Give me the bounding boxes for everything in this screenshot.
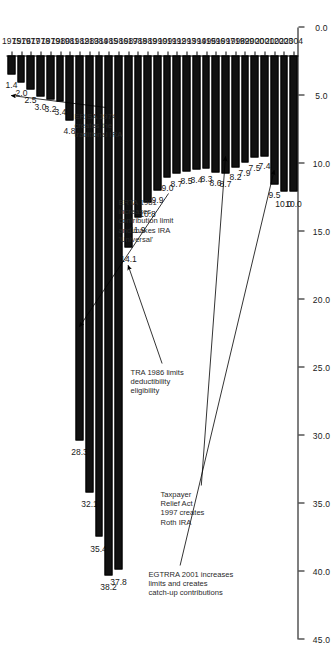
category-tick <box>118 51 119 55</box>
category-tick <box>11 51 12 55</box>
bar-row: 8.2 <box>231 55 239 639</box>
value-tick-label: 15.0 <box>312 226 329 236</box>
ira-contributions-chart: 0.05.010.015.020.025.030.035.040.045.0 1… <box>0 0 334 667</box>
bar-row: 10.8 <box>143 55 151 639</box>
bar-row: 10.0 <box>289 55 297 639</box>
category-tick <box>157 51 158 55</box>
category-label: 2004 <box>284 36 303 46</box>
category-tick <box>128 51 129 55</box>
value-tick-label: 20.0 <box>312 294 329 304</box>
bar <box>26 55 34 89</box>
category-tick <box>235 51 236 55</box>
value-tick <box>298 230 304 231</box>
bar-row: 3.4 <box>56 55 64 639</box>
bar <box>172 55 180 173</box>
category-tick <box>274 51 275 55</box>
value-tick <box>298 94 304 95</box>
bar <box>241 55 249 162</box>
bar <box>182 55 190 171</box>
bar-row: 2.0 <box>17 55 25 639</box>
bar-row: 1.4 <box>7 55 15 639</box>
bar <box>192 55 200 169</box>
bar-row: 35.4 <box>95 55 103 639</box>
category-tick <box>225 51 226 55</box>
value-tick-label: 40.0 <box>312 566 329 576</box>
category-tick <box>293 51 294 55</box>
value-tick <box>298 434 304 435</box>
value-tick-label: 5.0 <box>315 90 327 100</box>
bar-row: 8.7 <box>172 55 180 639</box>
category-tick <box>108 51 109 55</box>
annotation-egtrra-2001: EGTRRA 2001 increases limits and creates… <box>148 569 233 597</box>
bar <box>65 55 73 120</box>
category-tick <box>69 51 70 55</box>
bar <box>211 55 219 172</box>
category-tick <box>40 51 41 55</box>
category-tick <box>254 51 255 55</box>
bar-row: 9.9 <box>153 55 161 639</box>
bar-row: 14.1 <box>124 55 132 639</box>
category-tick <box>89 51 90 55</box>
bar <box>143 55 151 202</box>
category-tick <box>264 51 265 55</box>
bar <box>231 55 239 167</box>
annotation-tra-1986: TRA 1986 limits deductibility eligibilit… <box>130 367 183 395</box>
bar-row: 38.2 <box>104 55 112 639</box>
bar <box>7 55 15 74</box>
bar <box>163 55 171 177</box>
bar-row: 7.5 <box>250 55 258 639</box>
bar-value-label: 3.4 <box>54 106 66 116</box>
bar-series: 1.42.02.53.03.23.44.828.332.135.438.237.… <box>6 55 298 639</box>
bar <box>17 55 25 82</box>
value-tick-label: 0.0 <box>315 22 327 32</box>
bar <box>289 55 297 191</box>
bar <box>270 55 278 184</box>
bar <box>221 55 229 173</box>
annotation-erisa-1974: ERISA 1974 creates the traditional IRA <box>74 111 122 139</box>
category-tick <box>244 51 245 55</box>
value-tick <box>298 26 304 27</box>
value-tick-label: 35.0 <box>312 498 329 508</box>
category-tick <box>167 51 168 55</box>
category-tick <box>21 51 22 55</box>
value-tick-label: 10.0 <box>312 158 329 168</box>
bar-row: 8.3 <box>202 55 210 639</box>
category-tick <box>79 51 80 55</box>
bar <box>36 55 44 96</box>
bar-row: 2.5 <box>26 55 34 639</box>
category-tick <box>206 51 207 55</box>
category-tick <box>98 51 99 55</box>
category-tick <box>50 51 51 55</box>
bar-row: 7.9 <box>241 55 249 639</box>
bar-row: 37.8 <box>114 55 122 639</box>
bar-row: 8.5 <box>182 55 190 639</box>
value-tick-label: 25.0 <box>312 362 329 372</box>
annotation-erta-1981: ERTA 1981 increases contribution limit a… <box>118 197 173 243</box>
bar-row: 8.6 <box>211 55 219 639</box>
value-tick-label: 30.0 <box>312 430 329 440</box>
category-tick <box>196 51 197 55</box>
category-tick <box>137 51 138 55</box>
bar-value-label: 10.0 <box>285 198 302 208</box>
category-tick <box>60 51 61 55</box>
value-tick <box>298 570 304 571</box>
category-tick <box>147 51 148 55</box>
category-tick <box>283 51 284 55</box>
bar-row: 9.0 <box>163 55 171 639</box>
value-tick <box>298 638 304 639</box>
bar-row: 10.0 <box>280 55 288 639</box>
bar-value-label: 7.4 <box>258 161 270 171</box>
bar-row: 7.4 <box>260 55 268 639</box>
category-tick <box>30 51 31 55</box>
value-tick <box>298 162 304 163</box>
bar-value-label: 4.8 <box>63 125 75 135</box>
bar-row: 11.9 <box>134 55 142 639</box>
bar <box>260 55 268 156</box>
bar <box>134 55 142 217</box>
plot-area: 0.05.010.015.020.025.030.035.040.045.0 1… <box>0 0 334 667</box>
bar-row: 4.8 <box>65 55 73 639</box>
bar-row: 28.3 <box>75 55 83 639</box>
value-tick <box>298 502 304 503</box>
bar-row: 8.7 <box>221 55 229 639</box>
value-tick <box>298 298 304 299</box>
